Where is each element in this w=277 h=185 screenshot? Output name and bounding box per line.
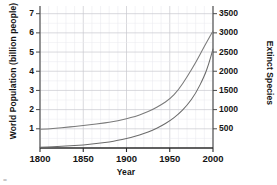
chart-figure: World Population (billion people) Extinc… bbox=[0, 0, 277, 185]
plot-area bbox=[0, 0, 277, 185]
scan-artifact: •• bbox=[3, 176, 17, 183]
